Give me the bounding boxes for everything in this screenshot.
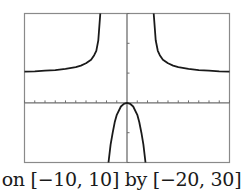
graph-window [0, 0, 243, 196]
curve-left-upper-branch [25, 14, 101, 72]
curve-right-upper-branch [154, 14, 230, 72]
axes [25, 14, 230, 163]
window-caption: on [−10, 10] by [−20, 30] [0, 168, 243, 190]
